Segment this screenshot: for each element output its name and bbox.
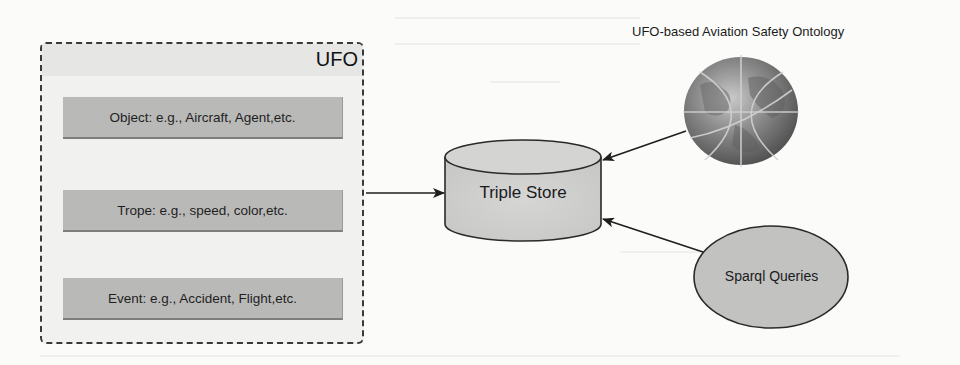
edge-ontology-to-triple-store <box>603 131 686 160</box>
sparql-queries-label: Sparql Queries <box>694 268 849 284</box>
triple-store-label: Triple Store <box>445 183 601 203</box>
ontology-title: UFO-based Aviation Safety Ontology <box>632 24 844 39</box>
edge-sparql-to-triple-store <box>603 219 703 252</box>
globe-icon <box>683 55 799 167</box>
